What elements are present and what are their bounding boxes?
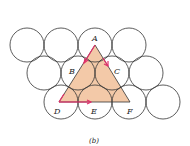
label-e: E [90, 107, 97, 116]
label-c: C [114, 67, 120, 76]
label-d: D [53, 107, 61, 116]
label-b: B [68, 67, 75, 76]
label-a: A [91, 34, 98, 43]
label-f: F [126, 107, 133, 116]
figure-caption: (b) [89, 137, 99, 145]
close-packing-diagram: A B C D E F (b) [0, 0, 190, 146]
